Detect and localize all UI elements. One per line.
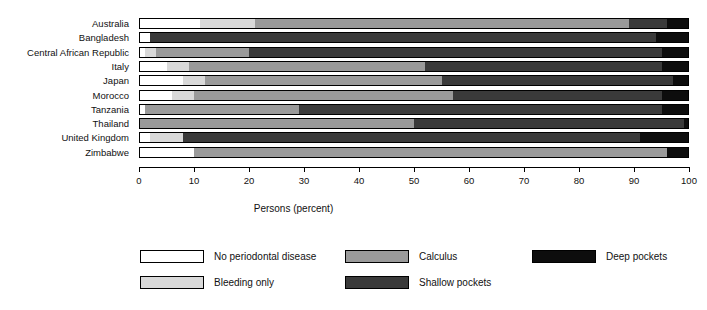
- bar-segment-deep: [640, 132, 690, 143]
- bar-row: [139, 147, 689, 158]
- periodontal-disease-stacked-bar-chart: AustraliaBangladeshCentral African Repub…: [0, 0, 707, 310]
- y-axis-label-bangladesh: Bangladesh: [79, 32, 129, 43]
- plot-area: [139, 18, 689, 166]
- bar-segment-shallow: [442, 75, 673, 86]
- y-axis-label-thailand: Thailand: [93, 118, 129, 129]
- bar-segment-bleeding: [167, 61, 189, 72]
- bar-segment-calculus: [139, 118, 414, 129]
- x-axis-tick: [634, 167, 635, 172]
- x-axis-tick: [414, 167, 415, 172]
- bar-segment-bleeding: [150, 132, 183, 143]
- x-axis-tick: [359, 167, 360, 172]
- x-axis-tick: [304, 167, 305, 172]
- x-axis-tick: [579, 167, 580, 172]
- legend-item-no-periodontal-disease: No periodontal disease: [140, 250, 316, 263]
- bar-segment-shallow: [629, 18, 668, 29]
- legend-item-shallow-pockets: Shallow pockets: [345, 276, 491, 289]
- bar-segment-bleeding: [183, 75, 205, 86]
- x-axis-tick-label: 90: [629, 175, 640, 186]
- bar-segment-deep: [667, 18, 689, 29]
- bar-segment-calculus: [189, 61, 426, 72]
- bar-segment-calculus: [194, 90, 453, 101]
- x-axis-tick-label: 40: [354, 175, 365, 186]
- chart-legend: No periodontal diseaseBleeding onlyCalcu…: [0, 244, 707, 304]
- y-axis-label-italy: Italy: [112, 61, 129, 72]
- bar-segment-none: [139, 132, 150, 143]
- bar-segment-shallow: [299, 104, 662, 115]
- legend-swatch: [140, 276, 204, 289]
- bar-segment-none: [139, 147, 194, 158]
- y-axis-label-united-kingdom: United Kingdom: [61, 132, 129, 143]
- bar-segment-calculus: [255, 18, 629, 29]
- bar-segment-none: [139, 18, 200, 29]
- bar-segment-calculus: [156, 47, 250, 58]
- bar-row: [139, 47, 689, 58]
- x-axis-tick-label: 20: [244, 175, 255, 186]
- legend-swatch: [532, 250, 596, 263]
- legend-label: Deep pockets: [606, 251, 667, 262]
- bar-row: [139, 90, 689, 101]
- bar-segment-none: [139, 61, 167, 72]
- legend-item-calculus: Calculus: [345, 250, 457, 263]
- bar-segment-deep: [673, 75, 690, 86]
- bar-segment-bleeding: [172, 90, 194, 101]
- x-axis-tick-label: 60: [464, 175, 475, 186]
- bar-segment-shallow: [249, 47, 662, 58]
- legend-swatch: [140, 250, 204, 263]
- bar-segment-deep: [662, 47, 690, 58]
- bar-segment-deep: [667, 147, 689, 158]
- bar-segment-calculus: [145, 104, 299, 115]
- bar-segment-none: [139, 32, 150, 43]
- y-axis-label-morocco: Morocco: [93, 90, 129, 101]
- legend-label: Bleeding only: [214, 277, 274, 288]
- bar-row: [139, 132, 689, 143]
- bar-segment-bleeding: [200, 18, 255, 29]
- bar-segment-calculus: [205, 75, 442, 86]
- legend-label: Shallow pockets: [419, 277, 491, 288]
- x-axis-tick-label: 0: [136, 175, 141, 186]
- x-axis-tick: [524, 167, 525, 172]
- bar-row: [139, 61, 689, 72]
- x-axis-tick-label: 50: [409, 175, 420, 186]
- x-axis-tick: [139, 167, 140, 172]
- x-axis-title-text: Persons (percent): [254, 203, 333, 214]
- bar-segment-shallow: [414, 118, 684, 129]
- y-axis-label-zimbabwe: Zimbabwe: [85, 147, 129, 158]
- bar-segment-none: [139, 75, 183, 86]
- legend-label: Calculus: [419, 251, 457, 262]
- x-axis-title: Persons (percent): [0, 203, 707, 214]
- bar-segment-shallow: [453, 90, 662, 101]
- x-axis-tick: [689, 167, 690, 172]
- legend-label: No periodontal disease: [214, 251, 316, 262]
- bar-row: [139, 104, 689, 115]
- x-axis-tick: [469, 167, 470, 172]
- legend-swatch: [345, 250, 409, 263]
- x-axis-tick-label: 100: [681, 175, 697, 186]
- y-axis-label-japan: Japan: [103, 75, 129, 86]
- bar-segment-deep: [662, 61, 690, 72]
- x-axis-tick-label: 80: [574, 175, 585, 186]
- bar-row: [139, 75, 689, 86]
- bar-row: [139, 18, 689, 29]
- bar-segment-none: [139, 90, 172, 101]
- x-axis-tick-label: 70: [519, 175, 530, 186]
- bar-segment-shallow: [150, 32, 656, 43]
- bar-segment-deep: [656, 32, 689, 43]
- legend-item-bleeding-only: Bleeding only: [140, 276, 274, 289]
- bar-segment-bleeding: [145, 47, 156, 58]
- legend-item-deep-pockets: Deep pockets: [532, 250, 667, 263]
- x-axis-tick-label: 10: [189, 175, 200, 186]
- bar-segment-shallow: [425, 61, 662, 72]
- x-axis-tick: [194, 167, 195, 172]
- y-axis-label-tanzania: Tanzania: [91, 104, 129, 115]
- x-axis-tick-label: 30: [299, 175, 310, 186]
- x-axis-tick: [249, 167, 250, 172]
- bar-segment-deep: [662, 104, 690, 115]
- bar-segment-deep: [684, 118, 690, 129]
- bar-segment-calculus: [194, 147, 667, 158]
- legend-swatch: [345, 276, 409, 289]
- bar-segment-deep: [662, 90, 690, 101]
- y-axis-label-australia: Australia: [92, 18, 129, 29]
- bar-row: [139, 32, 689, 43]
- y-axis-label-central-african-republic: Central African Republic: [27, 47, 129, 58]
